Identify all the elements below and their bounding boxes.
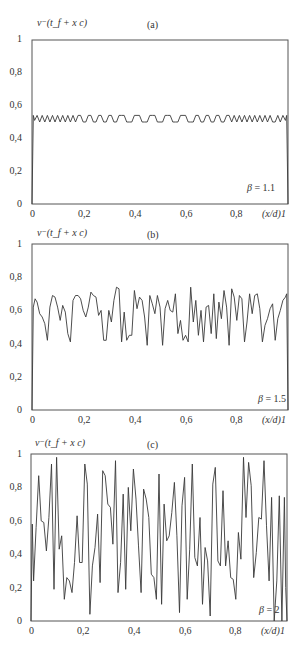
plot-area: [0, 0, 304, 640]
x-tick: 0,8: [229, 625, 242, 636]
x-tick: 0,4: [128, 625, 141, 636]
x-tick: 0: [29, 625, 34, 636]
x-tick: 0,2: [77, 625, 90, 636]
beta-annotation: β = 2: [259, 604, 280, 615]
beta-symbol: β: [259, 604, 264, 615]
data-series-line: [31, 457, 287, 621]
chart-panel-c: v⁻(t_f + x c) (c) 1 0,8 0,6 0,4 0,2 0 β …: [0, 0, 304, 640]
x-axis-title: (x/d)1: [261, 625, 285, 636]
x-tick: 0,6: [179, 625, 192, 636]
beta-value: = 2: [266, 604, 279, 615]
